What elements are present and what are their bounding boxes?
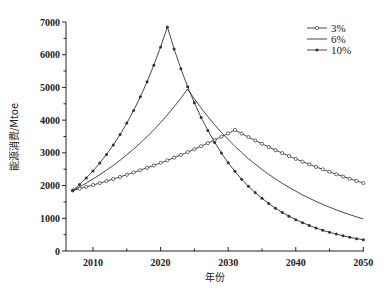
data-point (267, 202, 270, 205)
data-point (78, 183, 81, 186)
data-point (341, 175, 344, 178)
data-point (139, 169, 142, 172)
data-point (240, 132, 243, 135)
data-point (146, 80, 149, 83)
series-10pct (71, 25, 365, 241)
data-point (342, 234, 345, 237)
data-point (166, 159, 169, 162)
series-line (73, 89, 364, 219)
data-point (139, 95, 142, 98)
data-point (193, 101, 196, 104)
series-line (73, 27, 364, 240)
data-point (92, 169, 95, 172)
data-point (125, 122, 128, 125)
data-point (179, 153, 182, 156)
data-point (260, 142, 263, 145)
data-point (247, 135, 250, 138)
y-tick-label: 4000 (40, 115, 60, 126)
data-point (85, 177, 88, 180)
data-point (159, 161, 162, 164)
data-point (281, 211, 284, 214)
data-point (227, 161, 230, 164)
data-point (348, 236, 351, 239)
data-point (159, 45, 162, 48)
data-point (348, 177, 351, 180)
data-point (213, 141, 216, 144)
data-point (125, 173, 128, 176)
x-tick-label: 2020 (151, 257, 171, 268)
data-point (193, 148, 196, 151)
data-point (112, 143, 115, 146)
series-line (73, 130, 364, 191)
legend-item: 10% (307, 44, 351, 56)
data-point (260, 197, 263, 200)
line-chart: 0100020003000400050006000700020102020203… (0, 0, 384, 299)
data-point (132, 171, 135, 174)
x-tick-label: 2010 (83, 257, 103, 268)
data-point (274, 149, 277, 152)
data-point (173, 47, 176, 50)
data-point (119, 133, 122, 136)
x-axis-title: 年份 (205, 271, 225, 283)
x-tick-label: 2030 (218, 257, 238, 268)
data-point (314, 165, 317, 168)
data-point (152, 164, 155, 167)
data-point (287, 154, 290, 157)
data-point (294, 218, 297, 221)
series-3pct (71, 128, 365, 192)
data-point (240, 178, 243, 181)
data-point (98, 162, 101, 165)
x-tick-label: 2050 (353, 257, 373, 268)
filled-dot-marker-icon (316, 49, 319, 52)
data-point (254, 191, 257, 194)
data-point (362, 238, 365, 241)
legend: 3%6%10% (307, 22, 351, 56)
data-point (315, 227, 318, 230)
data-point (206, 129, 209, 132)
data-point (152, 64, 155, 67)
data-point (287, 215, 290, 218)
data-point (362, 181, 365, 184)
data-point (335, 173, 338, 176)
series-6pct (73, 89, 364, 219)
data-point (335, 233, 338, 236)
y-tick-label: 6000 (40, 49, 60, 60)
x-tick-label: 2040 (286, 257, 306, 268)
data-point (105, 153, 108, 156)
data-point (145, 166, 148, 169)
data-point (220, 152, 223, 155)
legend-label: 10% (331, 44, 351, 56)
data-point (328, 170, 331, 173)
y-tick-label: 0 (55, 246, 60, 257)
data-point (91, 183, 94, 186)
data-point (132, 109, 135, 112)
series-group (71, 25, 365, 241)
data-point (328, 231, 331, 234)
data-point (308, 163, 311, 166)
data-point (98, 181, 101, 184)
y-tick-label: 1000 (40, 213, 60, 224)
data-point (220, 135, 223, 138)
data-point (85, 185, 88, 188)
y-tick-label: 7000 (40, 17, 60, 28)
data-point (254, 139, 257, 142)
data-point (267, 145, 270, 148)
data-point (173, 156, 176, 159)
data-point (206, 142, 209, 145)
data-point (118, 175, 121, 178)
data-point (166, 25, 169, 28)
data-point (112, 177, 115, 180)
data-point (200, 145, 203, 148)
data-point (321, 229, 324, 232)
data-point (179, 67, 182, 70)
data-point (274, 207, 277, 210)
data-point (233, 128, 236, 131)
data-point (308, 224, 311, 227)
data-point (281, 152, 284, 155)
data-point (186, 151, 189, 154)
y-tick-label: 2000 (40, 180, 60, 191)
data-point (294, 157, 297, 160)
data-point (301, 160, 304, 163)
data-point (105, 179, 108, 182)
data-point (301, 221, 304, 224)
